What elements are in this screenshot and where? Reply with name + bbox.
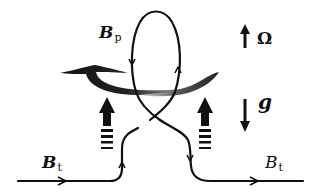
flux-tube-loop [132,12,180,121]
label-bt-left-main: B [42,152,56,172]
label-bp-main: B [99,22,113,42]
label-bt-left-sub: t [57,161,61,174]
label-bp: Bp [99,24,121,43]
label-bt-right-main: B [265,152,278,172]
dashed-up-arrow-icon [197,97,213,149]
label-omega: Ω [257,30,272,47]
arrow-down-icon [240,99,250,132]
flux-tube-left-leg [18,128,138,181]
rotation-swirl-icon [60,65,219,96]
arrow-up-icon [240,24,250,48]
label-bp-sub: p [114,31,121,44]
label-bt-right-sub: t [279,161,283,174]
label-bt-left: Bt [42,154,62,173]
label-bt-right: Bt [265,154,283,173]
flux-tube-diagram: Bp Bt Bt Ω g [0,0,320,195]
label-gravity: g [258,92,272,112]
dashed-up-arrow-icon [99,97,115,149]
